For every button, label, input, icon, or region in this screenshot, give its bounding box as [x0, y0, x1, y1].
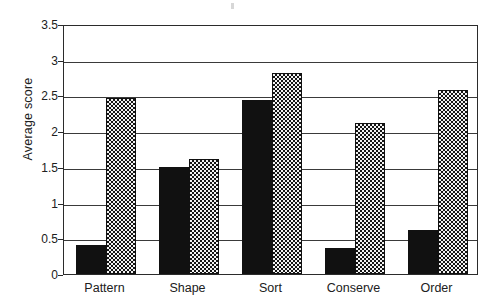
y-tick-label: 0.5	[18, 233, 58, 245]
bar-conserve-series1	[325, 248, 355, 274]
bar-chart-figure: Average score 00.511.522.533.5 PatternSh…	[0, 0, 498, 306]
bar-shape-series2	[189, 159, 219, 274]
y-tick-label: 1.5	[18, 162, 58, 174]
plot-area	[63, 25, 478, 275]
bar-series-container	[64, 26, 477, 274]
scan-artifact-speck	[231, 3, 234, 9]
bar-order-series1	[408, 230, 438, 274]
y-tick-label: 0	[18, 269, 58, 281]
bar-pattern-series2	[106, 98, 136, 274]
y-tick-label: 3.5	[18, 19, 58, 31]
x-axis-category-labels: PatternShapeSortConserveOrder	[63, 281, 478, 303]
bar-order-series2	[438, 90, 468, 274]
y-tick-label: 3	[18, 55, 58, 67]
bar-pattern-series1	[76, 245, 106, 274]
x-category-label: Pattern	[63, 281, 146, 295]
x-category-label: Shape	[146, 281, 229, 295]
bar-sort-series2	[272, 73, 302, 274]
x-category-label: Sort	[229, 281, 312, 295]
x-category-label: Conserve	[312, 281, 395, 295]
bar-shape-series1	[159, 167, 189, 274]
y-tick-mark	[58, 275, 63, 276]
bar-sort-series1	[242, 100, 272, 274]
y-axis-tick-labels: 00.511.522.533.5	[18, 25, 58, 275]
x-category-label: Order	[395, 281, 478, 295]
y-tick-label: 2	[18, 126, 58, 138]
bar-conserve-series2	[355, 123, 385, 274]
y-tick-label: 2.5	[18, 90, 58, 102]
y-tick-label: 1	[18, 198, 58, 210]
